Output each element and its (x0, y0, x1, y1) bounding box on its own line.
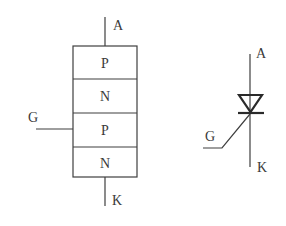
cathode-label: K (112, 193, 122, 208)
thyristor-diagram: A P N P N G K A G K (0, 0, 286, 226)
anode-label: A (113, 18, 124, 33)
gate-label: G (28, 110, 38, 125)
symbol-cathode-label: K (257, 160, 267, 175)
layer-3-label: P (101, 123, 109, 138)
layer-4-label: N (100, 156, 110, 171)
symbol-gate-label: G (205, 129, 215, 144)
layer-1-label: P (101, 56, 109, 71)
symbol-anode-label: A (256, 46, 267, 61)
layer-2-label: N (100, 89, 110, 104)
thyristor-symbol: A G K (203, 46, 267, 175)
pnpn-structure: A P N P N G K (28, 17, 137, 208)
